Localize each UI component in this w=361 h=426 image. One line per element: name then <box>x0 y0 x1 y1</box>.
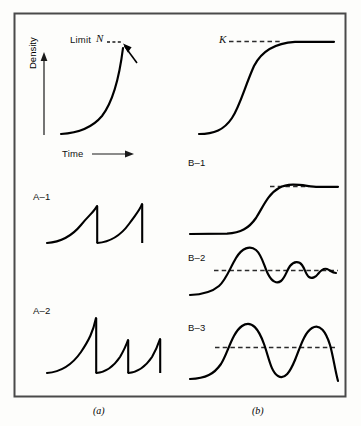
figure-container: Density Time Limit N K A–1 A–2 B–1 B–2 B… <box>0 0 361 426</box>
panel-a1-label: A–1 <box>33 191 51 202</box>
panel-b2-label: B–2 <box>188 252 206 263</box>
panel-b1-label: B–1 <box>188 157 206 168</box>
caption-b: (b) <box>252 405 264 416</box>
density-axis-arrow <box>41 52 48 135</box>
limit-n-symbol: N <box>96 32 104 44</box>
x-axis-label: Time <box>62 148 84 159</box>
panel-b2-curve <box>190 248 336 295</box>
panel-a2-curves <box>47 318 160 373</box>
panel-a1-curves <box>47 204 142 243</box>
exponential-limit-curve <box>61 48 123 134</box>
limit-n-pointer-arrow <box>123 44 137 64</box>
panel-a2-label: A–2 <box>33 305 51 316</box>
figure-svg <box>0 0 361 426</box>
logistic-k-curve <box>199 42 334 134</box>
figure-frame <box>15 14 346 397</box>
carrying-capacity-k-symbol: K <box>219 33 227 45</box>
limit-label: Limit <box>70 34 91 45</box>
y-axis-label: Density <box>27 37 38 69</box>
caption-a: (a) <box>93 405 105 416</box>
panel-b3-label: B–3 <box>188 322 206 333</box>
panel-b1-curve <box>190 185 338 234</box>
time-axis-arrow <box>92 151 134 158</box>
panel-b3-curve <box>190 324 338 381</box>
